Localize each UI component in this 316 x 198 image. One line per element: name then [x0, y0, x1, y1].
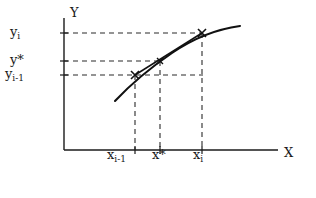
x-im1-subscript: i-1 — [114, 154, 126, 164]
function-curve — [115, 26, 240, 101]
y-tick-label-y-i: yi — [10, 25, 20, 38]
diagram-canvas — [0, 0, 316, 198]
x-tick-label-x-star: x* — [152, 148, 166, 161]
interpolation-diagram: Y X yi y* yi-1 xi-1 x* xi — [0, 0, 316, 198]
x-tick-label-x-i-minus-1: xi-1 — [107, 148, 126, 161]
y-tick-label-y-i-minus-1: yi-1 — [5, 67, 24, 80]
x-tick-label-x-i: xi — [193, 148, 203, 161]
y-axis-label: Y — [70, 6, 79, 19]
x-axis-label: X — [284, 146, 293, 159]
x-i-subscript: i — [200, 154, 203, 164]
y-i-subscript: i — [17, 31, 20, 41]
y-tick-label-y-star: y* — [10, 53, 24, 66]
y-im1-subscript: i-1 — [12, 73, 24, 83]
secant-chord — [135, 33, 202, 75]
